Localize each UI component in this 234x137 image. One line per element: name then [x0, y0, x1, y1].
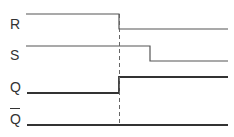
waveform-q [27, 77, 228, 93]
timing-diagram [0, 0, 234, 137]
waveform-r [26, 14, 228, 29]
waveform-s [26, 46, 228, 61]
